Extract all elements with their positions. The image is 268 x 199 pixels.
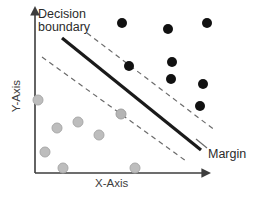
data-point-negative xyxy=(73,117,83,127)
data-point-negative xyxy=(58,163,68,173)
data-point-negative xyxy=(94,130,104,140)
svm-margin-figure: Decision boundary Margin X-Axis Y-Axis xyxy=(0,0,268,199)
decision-boundary-label: Decision boundary xyxy=(38,8,90,34)
data-point-positive xyxy=(117,18,127,28)
support-vector-negative xyxy=(116,109,126,119)
class-negative-points xyxy=(33,95,140,173)
support-vector-positive xyxy=(124,61,134,71)
data-point-positive xyxy=(166,74,176,84)
y-axis-label: Y-Axis xyxy=(10,66,22,126)
data-point-positive xyxy=(163,24,173,34)
data-point-negative xyxy=(33,95,43,105)
class-positive-points xyxy=(117,18,212,111)
data-point-negative xyxy=(52,123,62,133)
x-axis-label: X-Axis xyxy=(95,177,128,189)
margin-label: Margin xyxy=(208,148,246,161)
upper-margin-line xyxy=(87,33,216,131)
data-point-positive xyxy=(198,79,208,89)
decision-boundary-line xyxy=(62,38,201,150)
data-point-positive xyxy=(195,101,205,111)
axes-group xyxy=(35,14,203,173)
data-point-negative xyxy=(130,163,140,173)
data-point-negative xyxy=(40,147,50,157)
data-point-positive xyxy=(202,18,212,28)
lower-margin-line xyxy=(42,57,186,161)
data-point-positive xyxy=(167,57,177,67)
